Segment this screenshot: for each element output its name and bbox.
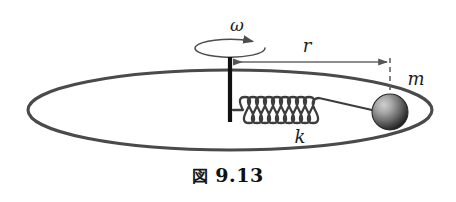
figure-caption: 図9.13 [0, 163, 456, 187]
rotation-indicator-ellipse [195, 39, 265, 57]
radius-label: r [303, 35, 313, 56]
angular-velocity-label: ω [230, 15, 244, 35]
point-mass-sphere [372, 94, 408, 130]
caption-figure-number: 9.13 [215, 164, 263, 186]
caption-kanji-zu: 図 [192, 167, 208, 186]
spring-constant-label: k [295, 126, 306, 147]
helical-spring [233, 97, 372, 123]
mass-label: m [407, 68, 424, 89]
physics-figure-9-13: ω r m k 図9.13 [0, 0, 456, 202]
